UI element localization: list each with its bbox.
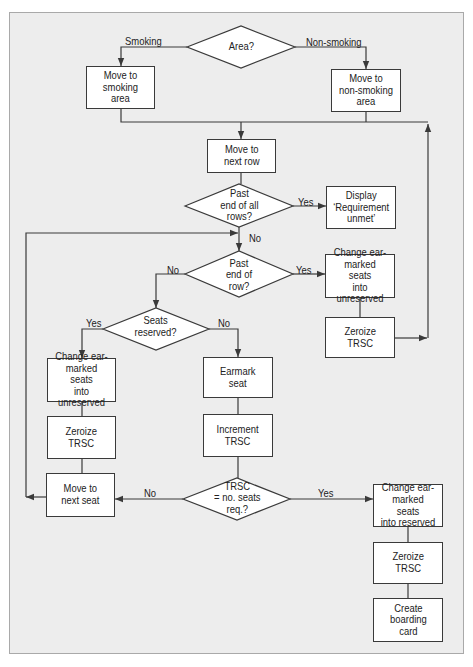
edge-label-reserved-no: No <box>218 317 230 329</box>
process-text: Change ear- marked seats into reserved <box>380 482 436 528</box>
process-text: Change ear- marked seats into unreserved <box>54 351 109 409</box>
process-display-requirement-unmet: Display ‘Requirement unmet’ <box>326 186 396 229</box>
edge-label-end-row-yes: Yes <box>296 264 311 276</box>
decision-seats-reserved-text: Seats reserved? <box>135 315 177 338</box>
process-text: Create boarding card <box>390 603 427 638</box>
connector-end-row-no <box>156 274 185 308</box>
process-zeroize-trsc-seat-taken: Zeroize TRSC <box>47 416 116 459</box>
decision-past-all-rows-text: Past end of all rows? <box>220 188 258 223</box>
edge-label-all-rows-no: No <box>249 232 261 244</box>
decision-seats-reserved: Seats reserved? <box>116 306 196 348</box>
process-text: Increment TRSC <box>217 424 259 447</box>
process-text: Change ear- marked seats into unreserved <box>332 247 388 305</box>
process-text: Move to next row <box>224 144 260 167</box>
process-unreserve-at-row-end: Change ear- marked seats into unreserved <box>325 254 395 298</box>
process-move-to-nonsmoking-area: Move to non-smoking area <box>331 69 401 112</box>
decision-past-end-of-row-text: Past end of row? <box>226 258 252 293</box>
process-text: Zeroize TRSC <box>344 326 375 349</box>
process-zeroize-trsc-row-end: Zeroize TRSC <box>325 317 395 358</box>
connector-area-to-nonsmoking <box>295 47 366 69</box>
edge-label-non-smoking: Non-smoking <box>306 36 362 48</box>
decision-trsc-equals-required: TRSC = no. seats req.? <box>197 477 277 519</box>
flowchart-canvas: Area? Past end of all rows? Past end of … <box>0 0 473 667</box>
connector-area-to-smoking <box>121 47 187 66</box>
edge-label-all-rows-yes: Yes <box>298 196 313 208</box>
process-create-boarding-card: Create boarding card <box>373 598 443 642</box>
process-move-to-smoking-area: Move to smoking area <box>86 66 155 109</box>
decision-area-text: Area? <box>228 41 253 53</box>
process-earmark-seat: Earmark seat <box>203 357 273 398</box>
connector-reserved-no <box>209 329 238 357</box>
process-text: Zeroize TRSC <box>66 426 97 449</box>
process-reserve-seats: Change ear- marked seats into reserved <box>373 484 443 527</box>
process-text: Earmark seat <box>220 366 256 389</box>
process-move-to-next-seat: Move to next seat <box>46 473 115 517</box>
decision-past-all-rows: Past end of all rows? <box>199 184 279 227</box>
edge-label-end-row-no: No <box>167 264 179 276</box>
decision-area: Area? <box>201 26 281 68</box>
process-text: Move to smoking area <box>103 70 138 105</box>
edge-label-reserved-yes: Yes <box>86 317 101 329</box>
process-text: Display ‘Requirement unmet’ <box>333 190 389 225</box>
process-text: Move to non-smoking area <box>339 73 393 108</box>
process-increment-trsc: Increment TRSC <box>203 414 273 457</box>
edge-label-trsc-no: No <box>144 487 156 499</box>
process-zeroize-trsc-final: Zeroize TRSC <box>373 542 443 584</box>
process-text: Zeroize TRSC <box>392 551 423 574</box>
edge-label-smoking: Smoking <box>125 35 162 47</box>
process-text: Move to next seat <box>61 483 99 506</box>
edge-label-trsc-yes: Yes <box>318 487 333 499</box>
decision-past-end-of-row: Past end of row? <box>199 252 279 298</box>
decision-trsc-equals-required-text: TRSC = no. seats req.? <box>214 481 260 516</box>
process-unreserve-seat-taken: Change ear- marked seats into unreserved <box>47 358 116 402</box>
process-move-to-next-row: Move to next row <box>207 139 276 173</box>
